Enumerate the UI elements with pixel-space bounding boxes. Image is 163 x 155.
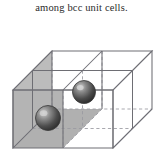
atom-back-center-body bbox=[73, 81, 96, 104]
atom-back-center-highlight bbox=[77, 85, 84, 90]
atom-back-center bbox=[73, 81, 96, 104]
figure-root: among bcc unit cells. bbox=[0, 0, 163, 155]
atom-front-center bbox=[36, 106, 61, 131]
figure-caption: among bcc unit cells. bbox=[0, 0, 163, 15]
atom-front-center-body bbox=[36, 106, 61, 131]
atom-front-center-highlight bbox=[40, 110, 48, 116]
bcc-unit-cells-illustration bbox=[0, 14, 163, 155]
